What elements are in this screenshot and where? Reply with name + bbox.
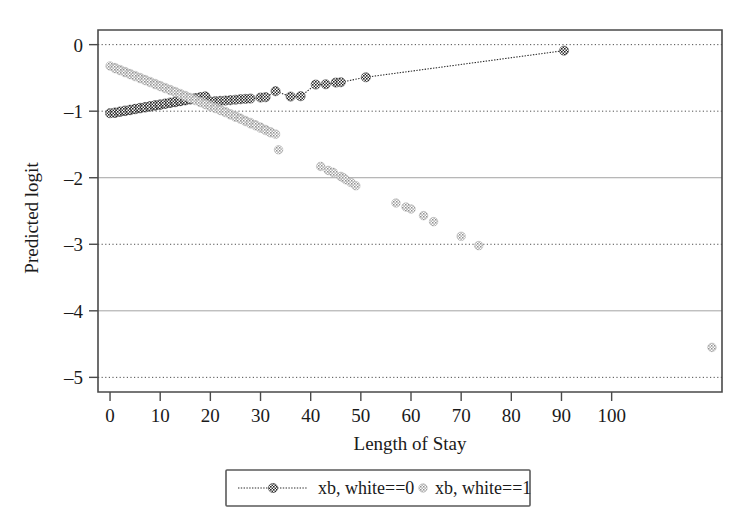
x-tick-label-70: 70 — [452, 405, 471, 426]
x-tick-label-80: 80 — [502, 405, 521, 426]
y-tick-label--2: –2 — [63, 168, 83, 189]
data-point-white-1 — [407, 205, 416, 214]
data-point-white-0 — [271, 87, 280, 96]
chart-figure: 0102030405060708090100 0–1–2–3–4–5 Lengt… — [0, 0, 752, 530]
data-point-white-1 — [316, 162, 325, 171]
data-point-white-0 — [246, 94, 255, 103]
x-tick-label-20: 20 — [201, 405, 220, 426]
legend-marker-white-0 — [268, 483, 277, 492]
data-point-white-1 — [419, 211, 428, 220]
legend-entry-white-1[interactable]: xb, white==1 — [419, 478, 531, 498]
chart-legend: xb, white==0 xb, white==1 — [226, 470, 531, 506]
data-point-white-1 — [271, 130, 280, 139]
y-tick-label--5: –5 — [63, 367, 83, 388]
predicted-logit-scatter-chart: 0102030405060708090100 0–1–2–3–4–5 Lengt… — [0, 0, 752, 530]
y-axis-title: Predicted logit — [21, 162, 42, 274]
x-tick-label-30: 30 — [251, 405, 270, 426]
data-point-white-1 — [329, 168, 338, 177]
x-tick-label-0: 0 — [105, 405, 115, 426]
data-point-white-0 — [296, 92, 305, 101]
data-point-white-1 — [457, 232, 466, 241]
legend-marker-white-1 — [419, 484, 427, 492]
data-point-white-0 — [311, 80, 320, 89]
data-point-white-0 — [261, 93, 270, 102]
legend-label-white-1: xb, white==1 — [435, 478, 531, 498]
x-tick-label-40: 40 — [301, 405, 320, 426]
legend-label-white-0: xb, white==0 — [318, 478, 414, 498]
y-tick-label--3: –3 — [63, 234, 83, 255]
y-tick-label-0: 0 — [74, 35, 84, 56]
x-tick-label-60: 60 — [402, 405, 421, 426]
x-tick-label-50: 50 — [351, 405, 370, 426]
x-tick-label-100: 100 — [597, 405, 626, 426]
data-point-white-0 — [361, 73, 370, 82]
data-point-white-1 — [474, 241, 483, 250]
data-point-white-0 — [559, 46, 568, 55]
data-point-white-1 — [429, 217, 438, 226]
y-tick-label--1: –1 — [63, 101, 83, 122]
data-point-white-1 — [708, 343, 717, 352]
data-point-white-0 — [321, 80, 330, 89]
x-tick-label-90: 90 — [552, 405, 571, 426]
data-point-white-1 — [392, 199, 401, 208]
data-point-white-0 — [286, 92, 295, 101]
x-tick-label-10: 10 — [151, 405, 170, 426]
x-axis-title: Length of Stay — [354, 433, 467, 454]
data-point-white-1 — [274, 145, 283, 154]
data-point-white-0 — [336, 78, 345, 87]
y-tick-label--4: –4 — [63, 301, 84, 322]
data-point-white-1 — [352, 181, 361, 190]
